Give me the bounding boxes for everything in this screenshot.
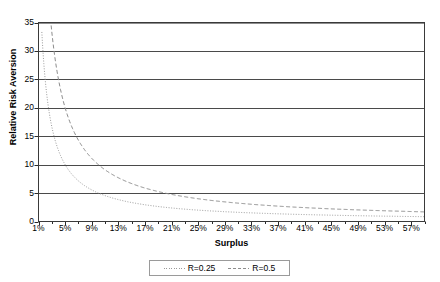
x-tick-label: 1% xyxy=(26,224,52,233)
x-tick-label: 5% xyxy=(52,224,78,233)
x-tick-label: 49% xyxy=(345,224,371,233)
y-tick-label: 15 xyxy=(10,132,34,141)
legend-item-r025: R=0.25 xyxy=(164,264,216,273)
legend-label-r025: R=0.25 xyxy=(188,264,216,273)
series-line-r05 xyxy=(51,25,424,211)
x-axis-title: Surplus xyxy=(38,238,425,248)
y-axis-tick-marks xyxy=(35,24,39,223)
legend-key-r05-icon xyxy=(228,268,249,269)
x-tick-label: 45% xyxy=(318,224,344,233)
x-tick-label: 57% xyxy=(398,224,424,233)
gridlines xyxy=(39,24,425,194)
x-tick-label: 21% xyxy=(159,224,185,233)
x-tick-label: 17% xyxy=(132,224,158,233)
chart-legend: R=0.25 R=0.5 xyxy=(149,260,290,276)
y-tick-label: 35 xyxy=(10,18,34,27)
legend-item-r05: R=0.5 xyxy=(228,264,275,273)
legend-key-r025-icon xyxy=(164,268,185,269)
x-tick-label: 13% xyxy=(105,224,131,233)
plot-frame xyxy=(39,23,425,222)
x-tick-label: 33% xyxy=(238,224,264,233)
x-axis-tick-labels: 1%5%9%13%17%21%25%29%33%37%41%45%49%53%5… xyxy=(0,224,440,238)
x-tick-label: 37% xyxy=(265,224,291,233)
series-line-r025 xyxy=(42,32,425,217)
y-tick-label: 20 xyxy=(10,103,34,112)
x-tick-label: 29% xyxy=(212,224,238,233)
y-tick-label: 5 xyxy=(10,189,34,198)
x-tick-label: 25% xyxy=(185,224,211,233)
x-tick-label: 41% xyxy=(292,224,318,233)
x-tick-label: 9% xyxy=(79,224,105,233)
chart-container: Relative Risk Aversion 05101520253035 1%… xyxy=(0,0,440,282)
x-tick-label: 53% xyxy=(372,224,398,233)
legend-label-r05: R=0.5 xyxy=(252,264,275,273)
y-axis-tick-labels: 05101520253035 xyxy=(10,0,34,282)
y-tick-label: 30 xyxy=(10,46,34,55)
y-tick-label: 10 xyxy=(10,160,34,169)
y-tick-label: 25 xyxy=(10,75,34,84)
data-series-group xyxy=(42,25,425,216)
